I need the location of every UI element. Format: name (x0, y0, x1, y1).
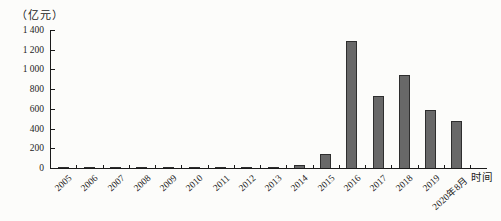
x-tick-mark (181, 165, 182, 168)
y-tick-mark (51, 69, 55, 70)
x-tick-label: 2007 (106, 173, 127, 193)
x-tick-mark (129, 165, 130, 168)
x-tick-mark (365, 165, 366, 168)
x-tick-mark (313, 165, 314, 168)
x-tick-label: 2014 (289, 173, 310, 193)
y-tick-label: 1 200 (0, 45, 44, 55)
x-tick-mark (470, 165, 471, 168)
x-tick-label: 2018 (394, 173, 415, 193)
y-tick-mark (51, 168, 55, 169)
bar-2016 (346, 41, 357, 168)
bar-2015 (320, 154, 331, 168)
y-tick-mark (51, 129, 55, 130)
bar-2014 (294, 165, 305, 168)
y-tick-mark (51, 50, 55, 51)
x-axis-title: 时间 (471, 169, 493, 184)
x-tick-mark (339, 165, 340, 168)
x-tick-mark (103, 165, 104, 168)
x-tick-label: 2013 (263, 173, 284, 193)
x-tick-label: 2017 (368, 173, 389, 193)
x-tick-mark (234, 165, 235, 168)
x-tick-mark (76, 165, 77, 168)
bar-2019 (425, 110, 436, 168)
bar-2010 (189, 167, 200, 168)
x-tick-mark (208, 165, 209, 168)
bar-2018 (399, 75, 410, 168)
bar-2017 (373, 96, 384, 168)
y-tick-label: 0 (0, 163, 44, 173)
x-tick-label: 2008 (132, 173, 153, 193)
y-tick-label: 1 000 (0, 64, 44, 74)
y-tick-mark (51, 109, 55, 110)
y-tick-label: 800 (0, 84, 44, 94)
y-tick-mark (51, 30, 55, 31)
x-tick-label: 2010 (184, 173, 205, 193)
bar-2006 (84, 167, 95, 168)
y-tick-label: 1 400 (0, 25, 44, 35)
x-tick-label: 2005 (53, 173, 74, 193)
x-tick-label: 2009 (158, 173, 179, 193)
x-tick-mark (286, 165, 287, 168)
x-axis-line (50, 168, 487, 169)
x-tick-mark (444, 165, 445, 168)
x-tick-label: 2012 (237, 173, 258, 193)
x-tick-label: 2016 (342, 173, 363, 193)
y-tick-label: 400 (0, 124, 44, 134)
x-tick-mark (391, 165, 392, 168)
bar-2005 (58, 167, 69, 168)
y-tick-mark (51, 148, 55, 149)
bar-2007 (110, 167, 121, 168)
y-tick-label: 200 (0, 143, 44, 153)
y-tick-label: 600 (0, 104, 44, 114)
bar-2013 (268, 167, 279, 168)
bar-chart: （亿元） 02004006008001 0001 2001 4002005200… (0, 0, 501, 221)
bar-2020-8 (451, 121, 462, 168)
y-axis-unit-label: （亿元） (16, 6, 64, 22)
bar-2009 (163, 167, 174, 168)
x-tick-label: 2019 (421, 173, 442, 193)
y-tick-mark (51, 89, 55, 90)
x-tick-mark (260, 165, 261, 168)
x-tick-mark (155, 165, 156, 168)
bar-2011 (215, 167, 226, 168)
bar-2008 (136, 167, 147, 168)
chart-page: （亿元） 02004006008001 0001 2001 4002005200… (0, 0, 501, 221)
x-tick-label: 2011 (211, 173, 232, 193)
x-tick-label: 2006 (79, 173, 100, 193)
x-tick-label: 2015 (316, 173, 337, 193)
bar-2012 (241, 167, 252, 168)
x-tick-mark (418, 165, 419, 168)
